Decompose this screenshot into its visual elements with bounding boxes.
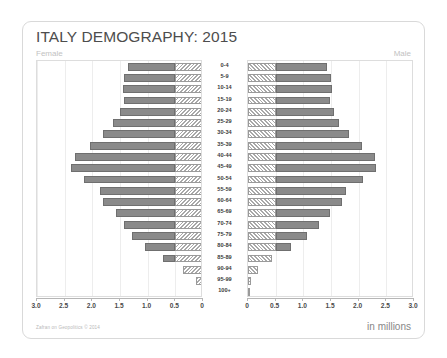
age-group-label: 55-59 <box>202 187 247 193</box>
bar-segment-solid <box>276 119 340 127</box>
axis-tick-label: 2.5 <box>51 302 77 309</box>
axis-tick <box>275 298 276 301</box>
bar-segment-solid <box>276 243 291 251</box>
female-axis-label: Female <box>36 49 63 58</box>
bar-segment-hatched <box>248 130 276 138</box>
bar-segment-hatched <box>175 63 202 71</box>
bar-segment-hatched <box>175 176 202 184</box>
male-axis-label: Male <box>394 49 411 58</box>
bar-segment-solid <box>132 232 175 240</box>
bar-segment-hatched <box>175 221 202 229</box>
pyramid-bar <box>84 176 202 184</box>
axis-tick <box>36 298 37 301</box>
pyramid-bar <box>248 255 272 263</box>
pyramid-bar <box>248 232 307 240</box>
bar-segment-solid <box>276 63 327 71</box>
chart-card: ITALY DEMOGRAPHY: 2015 Female Male 100+9… <box>22 21 425 339</box>
pyramid-bar <box>248 63 327 71</box>
pyramid-bar <box>145 243 202 251</box>
axis-tick-label: 0 <box>234 302 260 309</box>
pyramid-bar <box>90 142 202 150</box>
bar-segment-solid <box>124 97 175 105</box>
bar-segment-hatched <box>248 119 276 127</box>
axis-tick <box>147 298 148 301</box>
bar-segment-solid <box>276 164 377 172</box>
pyramid-bar <box>248 209 330 217</box>
pyramid-bar <box>103 198 202 206</box>
bar-segment-hatched <box>175 142 202 150</box>
gridline <box>386 61 387 296</box>
bar-segment-hatched <box>248 232 276 240</box>
age-group-label: 85-89 <box>202 255 247 261</box>
pyramid-bar <box>248 266 258 274</box>
axis-tick <box>413 298 414 301</box>
axis-tick <box>302 298 303 301</box>
bar-segment-hatched <box>175 97 202 105</box>
bar-segment-solid <box>276 198 342 206</box>
axis-tick-label: 3.0 <box>23 302 49 309</box>
bar-segment-solid <box>276 232 308 240</box>
age-group-label: 50-54 <box>202 176 247 182</box>
bar-segment-solid <box>103 130 175 138</box>
bar-segment-solid <box>276 176 363 184</box>
bar-segment-hatched <box>175 255 202 263</box>
bar-segment-solid <box>276 97 330 105</box>
age-group-label: 10-14 <box>202 85 247 91</box>
bar-segment-hatched <box>248 142 276 150</box>
bar-segment-solid <box>90 142 176 150</box>
age-group-label: 40-44 <box>202 153 247 159</box>
bar-segment-hatched <box>248 85 276 93</box>
bar-segment-solid <box>120 108 175 116</box>
bar-segment-solid <box>71 164 175 172</box>
age-group-label: 5-9 <box>202 74 247 80</box>
pyramid-bar <box>248 97 330 105</box>
axis-tick-label: 2.0 <box>78 302 104 309</box>
bar-segment-hatched <box>248 243 276 251</box>
age-group-label: 30-34 <box>202 130 247 136</box>
bar-segment-hatched <box>248 288 250 296</box>
bar-segment-solid <box>276 187 347 195</box>
age-group-label: 75-79 <box>202 232 247 238</box>
axis-tick <box>174 298 175 301</box>
bar-segment-solid <box>276 130 349 138</box>
pyramid-bar <box>248 85 332 93</box>
axis-tick-label: 1.5 <box>317 302 343 309</box>
age-group-label: 25-29 <box>202 119 247 125</box>
age-group-label: 65-69 <box>202 209 247 215</box>
page-title: ITALY DEMOGRAPHY: 2015 <box>36 28 237 46</box>
bar-segment-solid <box>128 63 175 71</box>
bar-segment-hatched <box>248 63 276 71</box>
bar-segment-hatched <box>248 153 276 161</box>
bar-segment-solid <box>276 209 330 217</box>
pyramid-bar <box>71 164 202 172</box>
pyramid-bar <box>248 130 349 138</box>
bar-segment-hatched <box>248 221 276 229</box>
bar-segment-solid <box>276 221 319 229</box>
bar-segment-solid <box>124 221 175 229</box>
bar-segment-hatched <box>248 108 276 116</box>
bar-segment-solid <box>84 176 175 184</box>
pyramid-bar <box>248 187 346 195</box>
bar-segment-hatched <box>175 198 202 206</box>
female-panel <box>36 60 202 297</box>
pyramid-bar <box>100 187 202 195</box>
bar-segment-hatched <box>175 153 202 161</box>
bar-segment-hatched <box>248 176 276 184</box>
pyramid-bar <box>248 108 334 116</box>
pyramid-bar <box>120 108 202 116</box>
pyramid-bar <box>248 153 375 161</box>
pyramid-bar <box>248 176 363 184</box>
bar-segment-solid <box>163 255 175 263</box>
age-group-label: 80-84 <box>202 243 247 249</box>
pyramid-bar <box>248 164 376 172</box>
axis-tick <box>330 298 331 301</box>
age-group-axis: 100+95-9990-9485-8980-8475-7970-7465-696… <box>202 60 247 297</box>
age-group-label: 45-49 <box>202 164 247 170</box>
bar-segment-solid <box>103 198 175 206</box>
age-group-label: 95-99 <box>202 277 247 283</box>
bar-segment-hatched <box>183 266 202 274</box>
pyramid-bar <box>123 85 202 93</box>
pyramid-bar <box>183 266 202 274</box>
age-group-label: 35-39 <box>202 142 247 148</box>
bar-segment-solid <box>145 243 175 251</box>
